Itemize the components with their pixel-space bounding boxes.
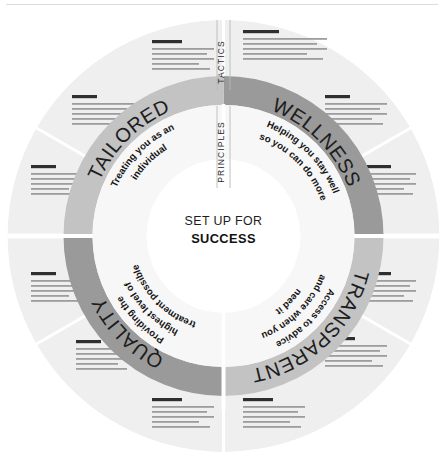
- center-title-line-2: SUCCESS: [191, 231, 256, 246]
- tactics-axis-label: TACTICS: [216, 40, 226, 83]
- center-title-line-1: SET UP FOR: [185, 214, 263, 228]
- principles-axis-label: PRINCIPLES: [216, 121, 226, 183]
- circular-strategy-diagram: WELLNESS TRANSPARENT QUALITY TAILORED He…: [0, 0, 447, 463]
- header-rule: [6, 4, 438, 5]
